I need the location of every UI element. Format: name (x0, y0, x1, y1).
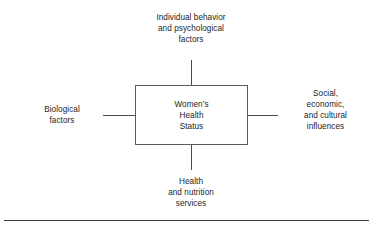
diagram-page: Individual behavior and psychological fa… (0, 0, 373, 229)
connector-line-right (248, 115, 278, 116)
node-label-individual-behavior: Individual behavior and psychological fa… (120, 12, 262, 45)
footer-divider-rule (4, 220, 369, 221)
node-label-health-nutrition-services: Health and nutrition services (128, 176, 254, 209)
node-label-social-economic-cultural: Social, economic, and cultural influence… (283, 88, 368, 132)
node-label-biological-factors: Biological factors (24, 104, 100, 126)
connector-line-bottom (191, 145, 192, 170)
connector-line-left (103, 115, 135, 116)
connector-line-top (191, 60, 192, 85)
central-node-box: Women’s Health Status (135, 85, 248, 145)
central-node-label: Women’s Health Status (174, 99, 208, 132)
